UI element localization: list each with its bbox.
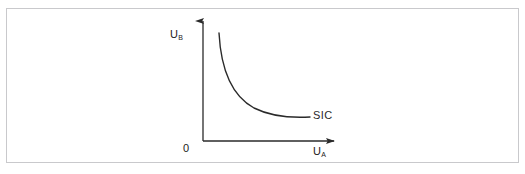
indifference-curve-diagram bbox=[0, 0, 525, 174]
origin-label: 0 bbox=[183, 143, 189, 154]
x-axis-symbol: U bbox=[313, 145, 321, 157]
y-axis-subscript: B bbox=[178, 34, 183, 41]
y-axis-symbol: U bbox=[170, 28, 178, 40]
curve-label-sic: SIC bbox=[313, 110, 333, 121]
x-axis-label: UA bbox=[313, 146, 326, 157]
y-axis-label: UB bbox=[170, 29, 183, 40]
social-indifference-curve bbox=[219, 33, 310, 117]
x-axis-subscript: A bbox=[321, 151, 326, 158]
